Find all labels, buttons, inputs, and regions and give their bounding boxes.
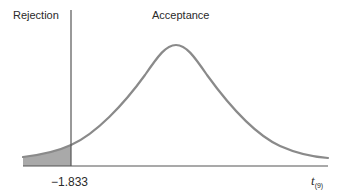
acceptance-region-label: Acceptance [152,10,209,21]
t-distribution-diagram: Rejection Acceptance −1.833 t(9) [0,0,343,193]
density-curve [23,45,328,158]
critical-value-label: −1.833 [51,176,88,188]
diagram-canvas [0,0,343,193]
axis-subscript: (9) [315,182,324,189]
rejection-region-label: Rejection [13,10,59,21]
x-axis-label: t(9) [311,174,323,189]
